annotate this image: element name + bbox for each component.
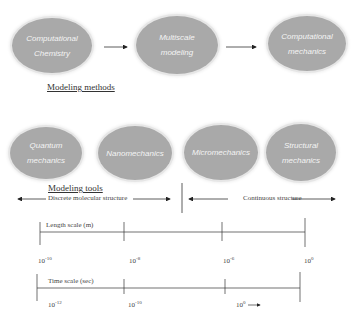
length-tick-3: 100 [304, 256, 314, 265]
time-tick-1: 10-10 [128, 300, 142, 309]
modeling-tools-heading: Modeling tools [48, 183, 103, 193]
length-tick-0: 10-10 [38, 256, 52, 265]
modeling-methods-heading: Modeling methods [47, 82, 115, 92]
time-tick-0: 10-12 [48, 300, 62, 309]
discrete-structure-label: Discrete molecular structure [48, 194, 127, 202]
length-tick-1: 10-8 [129, 256, 140, 265]
node-micromechanics: Micromechanics [184, 125, 258, 180]
node-structural-mechanics: Structural mechanics [266, 124, 336, 181]
node-nanomechanics: Nanomechanics [98, 126, 172, 180]
continuous-structure-label: Continuous structure [243, 194, 302, 202]
node-quantum-mechanics: Quantum mechanics [10, 127, 82, 179]
time-tick-2: 100 [236, 300, 246, 309]
length-scale-label: Length scale (m) [46, 221, 93, 229]
time-scale-label: Time scale (sec) [48, 277, 94, 285]
length-tick-2: 10-6 [223, 256, 234, 265]
